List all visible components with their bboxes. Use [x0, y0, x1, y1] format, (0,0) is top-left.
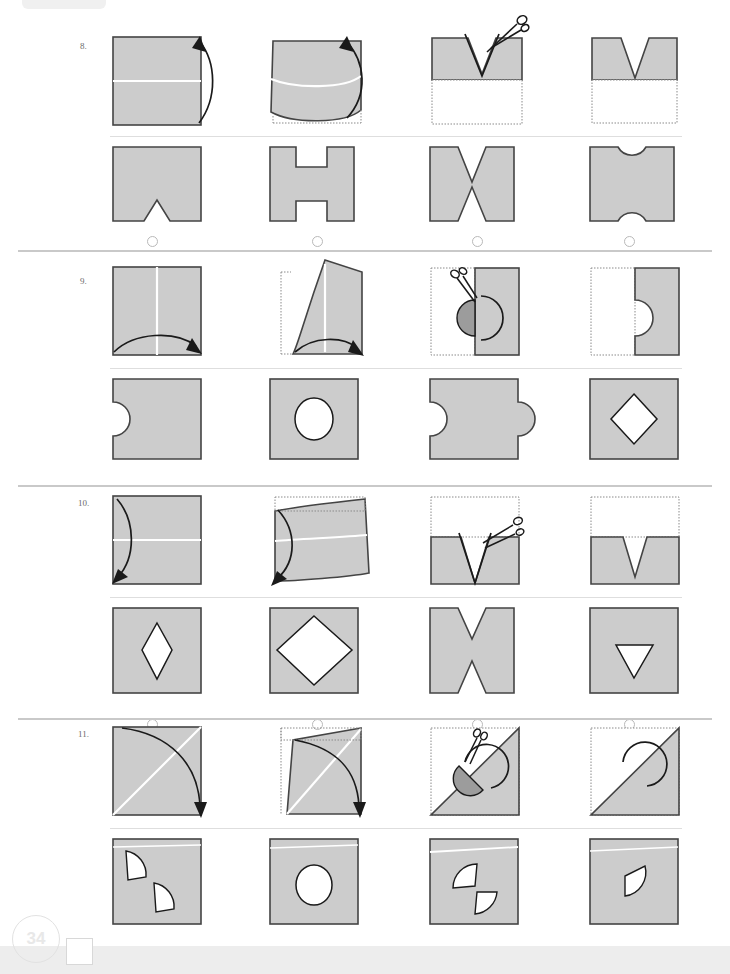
- problem-9-step-3: [425, 262, 535, 362]
- problem-8-option-d[interactable]: [585, 142, 695, 242]
- problem-11-divider: [110, 828, 682, 829]
- problem-8-radio-a[interactable]: [147, 236, 158, 247]
- page-number: 34: [12, 915, 60, 963]
- problem-9-step-1: [108, 262, 218, 362]
- problem-9-option-b[interactable]: [265, 374, 375, 474]
- problem-8: 8.: [0, 0, 730, 250]
- problem-8-option-a[interactable]: [108, 142, 218, 242]
- problem-10-step-1: [108, 491, 218, 591]
- problem-9-option-a[interactable]: [108, 374, 218, 474]
- worksheet-page: 8.: [0, 0, 730, 974]
- page-corner-box: [66, 938, 93, 965]
- problem-9: 9.: [0, 252, 730, 482]
- problem-11-step-2: [265, 722, 375, 822]
- problem-9-number: 9.: [80, 276, 87, 286]
- problem-10-step-4: [585, 491, 695, 591]
- problem-8-option-c[interactable]: [425, 142, 535, 242]
- problem-9-divider: [110, 368, 682, 369]
- problem-10-step-2: [265, 491, 375, 591]
- problem-11-option-d[interactable]: [585, 834, 695, 934]
- problem-10-option-a[interactable]: [108, 603, 218, 703]
- problem-10-step-3: [425, 491, 535, 591]
- problem-8-step-3: [425, 12, 535, 112]
- problem-9-step-2: [265, 256, 375, 356]
- problem-8-radio-d[interactable]: [624, 236, 635, 247]
- problem-11-option-b[interactable]: [265, 834, 375, 934]
- problem-8-radio-c[interactable]: [472, 236, 483, 247]
- problem-8-step-1: [108, 32, 218, 132]
- problem-8-step-2: [265, 32, 375, 132]
- problem-9-option-c[interactable]: [425, 374, 535, 474]
- problem-8-radio-b[interactable]: [312, 236, 323, 247]
- problem-10-number: 10.: [78, 498, 89, 508]
- problem-10-option-d[interactable]: [585, 603, 695, 703]
- problem-10-option-c[interactable]: [425, 603, 535, 703]
- problem-11-number: 11.: [78, 729, 89, 739]
- problem-10-divider: [110, 597, 682, 598]
- problem-11-step-3: [425, 722, 535, 822]
- problem-8-option-b[interactable]: [265, 142, 375, 242]
- problem-8-number: 8.: [80, 41, 87, 51]
- problem-10-option-b[interactable]: [265, 603, 375, 703]
- problem-8-step-4: [585, 32, 695, 132]
- problem-11-step-4: [585, 722, 695, 822]
- problem-9-option-d[interactable]: [585, 374, 695, 474]
- problem-11-step-1: [108, 722, 218, 822]
- problem-10: 10.: [0, 487, 730, 715]
- problem-9-step-4: [585, 262, 695, 362]
- problem-11-option-c[interactable]: [425, 834, 535, 934]
- problem-11-option-a[interactable]: [108, 834, 218, 934]
- problem-11: 11.: [0, 720, 730, 948]
- problem-8-divider: [110, 136, 682, 137]
- scan-bottom-edge: [0, 946, 730, 974]
